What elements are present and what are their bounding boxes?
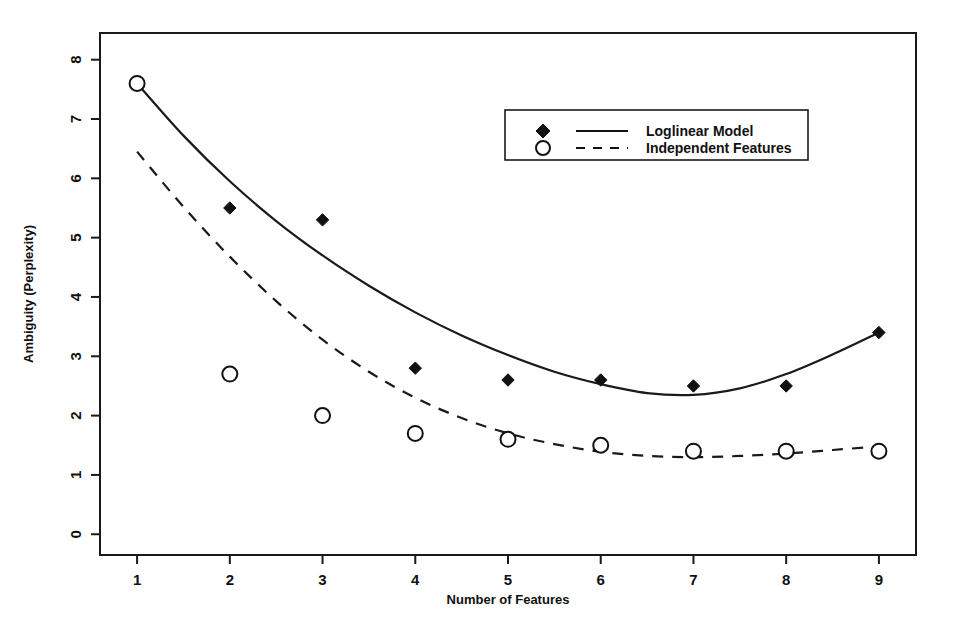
x-axis-tick-marks xyxy=(137,555,879,564)
data-point-open-circle xyxy=(686,444,701,459)
data-point-filled-diamond xyxy=(873,326,885,338)
y-tick-label: 4 xyxy=(68,292,85,301)
data-point-filled-diamond xyxy=(224,202,236,214)
x-tick-label: 4 xyxy=(411,571,420,588)
x-tick-label: 7 xyxy=(689,571,697,588)
y-tick-label: 1 xyxy=(68,471,85,479)
x-tick-label: 9 xyxy=(875,571,883,588)
y-tick-label: 5 xyxy=(68,233,85,241)
x-tick-label: 8 xyxy=(782,571,790,588)
data-point-open-circle xyxy=(871,444,886,459)
plot-canvas: 123456789 012345678 Number of Features A… xyxy=(0,0,954,636)
y-tick-label: 0 xyxy=(68,530,85,538)
data-point-open-circle xyxy=(408,426,423,441)
data-point-open-circle xyxy=(222,367,237,382)
y-tick-label: 2 xyxy=(68,411,85,419)
y-tick-label: 8 xyxy=(68,56,85,64)
x-tick-label: 5 xyxy=(504,571,512,588)
x-tick-label: 2 xyxy=(226,571,234,588)
x-axis-title: Number of Features xyxy=(447,592,570,607)
y-tick-label: 7 xyxy=(68,115,85,123)
y-axis-title: Ambiguity (Perplexity) xyxy=(21,225,36,363)
data-point-filled-diamond xyxy=(687,380,699,392)
x-tick-label: 6 xyxy=(597,571,605,588)
y-tick-label: 3 xyxy=(68,352,85,360)
legend: Loglinear Model Independent Features xyxy=(505,110,808,160)
open-circle-icon xyxy=(536,141,550,155)
data-point-filled-diamond xyxy=(502,374,514,386)
legend-label-independent-features: Independent Features xyxy=(646,140,792,156)
data-point-open-circle xyxy=(130,76,145,91)
x-tick-label: 1 xyxy=(133,571,141,588)
x-axis-tick-labels: 123456789 xyxy=(133,571,883,588)
data-point-open-circle xyxy=(315,408,330,423)
y-axis-tick-labels: 012345678 xyxy=(68,56,85,539)
data-point-filled-diamond xyxy=(780,380,792,392)
data-point-open-circle xyxy=(501,432,516,447)
data-point-filled-diamond xyxy=(316,214,328,226)
legend-label-loglinear-model: Loglinear Model xyxy=(646,123,753,139)
y-axis-tick-marks xyxy=(91,60,100,535)
chart-figure: 123456789 012345678 Number of Features A… xyxy=(0,0,954,636)
x-tick-label: 3 xyxy=(318,571,326,588)
data-point-open-circle xyxy=(593,438,608,453)
y-tick-label: 6 xyxy=(68,174,85,182)
data-point-open-circle xyxy=(779,444,794,459)
data-point-filled-diamond xyxy=(409,362,421,374)
